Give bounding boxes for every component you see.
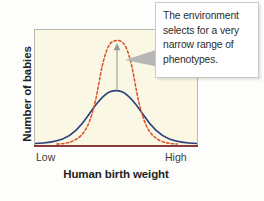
original-distribution-curve [35, 91, 197, 144]
callout-pointer-icon [125, 48, 159, 68]
y-axis-label: Number of babies [21, 34, 33, 154]
x-tick-high: High [165, 151, 187, 163]
selection-arrow [114, 43, 121, 90]
callout-text: The environment selects for a very narro… [163, 9, 255, 67]
x-tick-low: Low [36, 151, 55, 163]
callout-box: The environment selects for a very narro… [155, 2, 259, 78]
x-axis-line [34, 145, 198, 147]
x-axis-label: Human birth weight [34, 168, 198, 180]
stabilizing-selection-figure: Number of babies Low High Human birth we… [0, 0, 264, 201]
